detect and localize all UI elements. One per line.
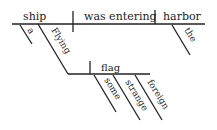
participle-object-word: flag	[101, 62, 121, 73]
participle-word: Flying	[49, 26, 73, 56]
sentence-diagram: ship was entering harbor a Flying flag s…	[0, 0, 217, 130]
subject-word: ship	[23, 10, 46, 23]
object-word: harbor	[163, 10, 202, 23]
article-the-word: the	[182, 26, 198, 44]
verb-word: was entering	[84, 10, 157, 23]
article-a-word: a	[25, 26, 37, 36]
modifier-some-word: some	[102, 76, 123, 102]
